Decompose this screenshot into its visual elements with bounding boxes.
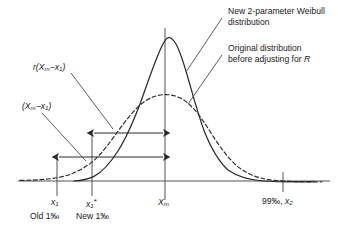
legend-original-line2-text: before adjusting for <box>228 54 304 64</box>
axis-label-x1: x1 <box>51 197 59 210</box>
leader-line-original <box>188 55 222 104</box>
leader-line-r-span <box>71 73 113 129</box>
legend-original-distribution: Original distribution before adjusting f… <box>228 43 310 64</box>
legend-original-line2: before adjusting for R <box>228 54 310 65</box>
leader-line-new-weibull <box>186 18 222 72</box>
axis-label-x2-subscript: 2 <box>289 199 292 206</box>
leader-line-span <box>42 113 86 161</box>
legend-new-weibull-line1: New 2-parameter Weibull <box>228 6 325 17</box>
figure-canvas <box>0 0 338 228</box>
label-span: (Xm−x1) <box>22 101 51 114</box>
weibull-distribution-figure: New 2-parameter Weibull distribution Ori… <box>0 0 338 228</box>
label-span-minus: −x <box>36 101 45 111</box>
label-r-span-open: r(X <box>33 62 44 72</box>
axis-label-xm: Xm <box>158 197 169 210</box>
axis-note-old-permille: Old 1‰ <box>30 211 59 222</box>
label-r-span: r(Xm−x1) <box>33 62 65 75</box>
legend-original-line1: Original distribution <box>228 43 310 54</box>
axis-label-xm-subscript: m <box>164 200 169 207</box>
legend-new-weibull-line2: distribution <box>228 17 325 28</box>
axis-label-x1-subscript: 1 <box>55 200 58 207</box>
axis-label-x2: 99‰, x2 <box>262 196 293 209</box>
label-span-open: (X <box>22 101 31 111</box>
label-r-span-close: ) <box>62 62 65 72</box>
axis-label-x1-star-mark: * <box>94 197 97 206</box>
legend-original-symbol-R: R <box>304 54 310 64</box>
label-r-span-minus: −x <box>50 62 59 72</box>
axis-note-new-permille: New 1‰ <box>76 211 109 222</box>
axis-label-x1-star: x1* <box>86 197 97 212</box>
label-span-close: ) <box>49 101 52 111</box>
legend-new-weibull: New 2-parameter Weibull distribution <box>228 6 325 27</box>
axis-label-x2-permille: 99‰, <box>262 196 285 206</box>
